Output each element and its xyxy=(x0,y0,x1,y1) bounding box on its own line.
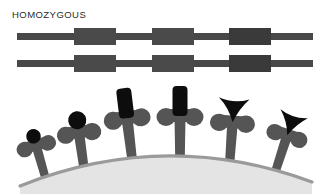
hill xyxy=(20,156,312,194)
figure-canvas: HOMOZYGOUS xyxy=(0,0,330,194)
tall-rectangle-head-icon xyxy=(173,86,188,116)
hill-fill xyxy=(20,156,312,194)
population-scene xyxy=(0,0,330,194)
